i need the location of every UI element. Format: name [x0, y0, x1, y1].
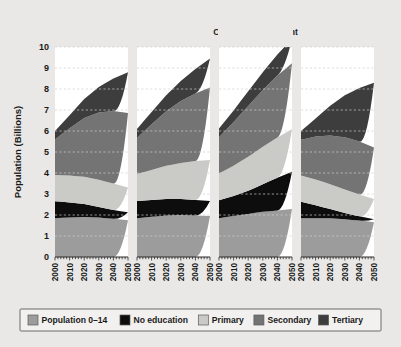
x-tick-label: 2010 [148, 263, 157, 282]
y-tick-label: 3 [44, 189, 49, 199]
x-tick-label: 2050 [124, 263, 133, 282]
panel-top-mask [218, 6, 293, 47]
y-tick-label: 2 [44, 210, 49, 220]
x-tick-label: 2050 [288, 263, 297, 282]
x-tick-label: 2000 [215, 263, 224, 282]
panel-top-mask [300, 6, 375, 47]
x-tick-label: 2020 [80, 263, 89, 282]
y-axis-title: Population (Billions) [12, 106, 23, 198]
legend-label: No education [133, 315, 187, 325]
x-tick-label: 2020 [244, 263, 253, 282]
chart-figure: Population (Billions)012345678910GlobalE… [0, 0, 401, 347]
x-tick-label: 2050 [206, 263, 215, 282]
y-tick-label: 1 [44, 231, 49, 241]
x-tick-label: 2030 [95, 263, 104, 282]
panel-top-mask [54, 6, 129, 47]
x-tick-label: 2000 [51, 263, 60, 282]
panel-top-mask [136, 6, 211, 47]
x-tick-label: 2040 [191, 263, 200, 282]
x-tick-label: 2030 [259, 263, 268, 282]
y-tick-label: 4 [44, 168, 49, 178]
x-tick-label: 2040 [273, 263, 282, 282]
x-tick-label: 2020 [326, 263, 335, 282]
chart-legend: Population 0–14No educationPrimarySecond… [20, 309, 381, 331]
x-tick-label: 2040 [109, 263, 118, 282]
legend-label: Primary [212, 315, 244, 325]
legend-swatch [28, 315, 38, 325]
area-series [301, 218, 374, 257]
stacked-area-chart: Population (Billions)012345678910GlobalE… [8, 6, 393, 341]
y-tick-label: 8 [44, 84, 49, 94]
x-tick-label: 2020 [162, 263, 171, 282]
x-tick-label: 2030 [341, 263, 350, 282]
y-tick-label: 9 [44, 63, 49, 73]
y-tick-label: 6 [44, 126, 49, 136]
legend-label: Population 0–14 [42, 315, 108, 325]
chart-paper: Population (Billions)012345678910GlobalE… [8, 6, 393, 341]
legend-swatch [319, 315, 329, 325]
legend-swatch [120, 315, 130, 325]
legend-label: Tertiary [332, 315, 363, 325]
x-tick-label: 2010 [312, 263, 321, 282]
x-tick-label: 2030 [177, 263, 186, 282]
x-tick-label: 2000 [133, 263, 142, 282]
x-tick-label: 2000 [297, 263, 306, 282]
x-tick-label: 2010 [66, 263, 75, 282]
y-tick-label: 7 [44, 105, 49, 115]
x-tick-label: 2050 [370, 263, 379, 282]
y-tick-label: 10 [39, 42, 49, 52]
area-series [55, 217, 128, 257]
legend-swatch [198, 315, 208, 325]
y-tick-label: 0 [44, 252, 49, 262]
legend-swatch [254, 315, 264, 325]
x-tick-label: 2040 [355, 263, 364, 282]
x-tick-label: 2010 [230, 263, 239, 282]
y-tick-label: 5 [44, 147, 49, 157]
y-axis-ticks: 012345678910 [39, 42, 49, 262]
legend-label: Secondary [267, 315, 311, 325]
